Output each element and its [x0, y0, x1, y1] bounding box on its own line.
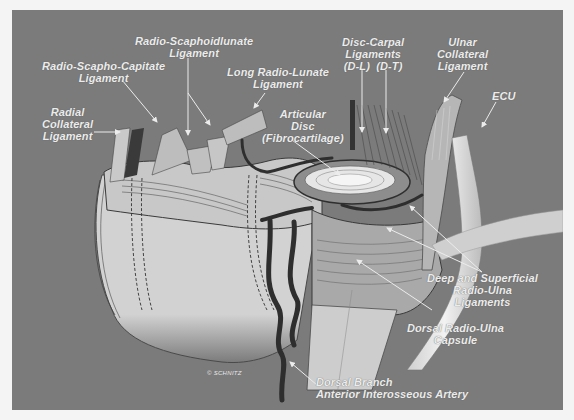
label-deep-superficial-radio-ulna-ligaments: Deep and SuperficialRadio-UlnaLigaments	[427, 272, 538, 308]
label-radio-scaphoidlunate-ligament: Radio-ScaphoidlunateLigament	[135, 35, 253, 59]
label-radial-collateral-ligament: RadialCollateralLigament	[42, 106, 93, 142]
label-dorsal-branch-anterior-interosseous-artery: Dorsal BranchAnterior Interosseous Arter…	[316, 376, 468, 400]
label-articular-disc: ArticularDisc(Fibrocartilage)	[262, 108, 344, 144]
artist-credit: © SCHNITZ	[207, 370, 242, 376]
anatomy-illustration: RadialCollateralLigament Radio-Scapho-Ca…	[12, 10, 563, 410]
label-dorsal-radio-ulna-capsule: Dorsal Radio-UlnaCapsule	[407, 322, 504, 346]
label-ecu: ECU	[492, 90, 516, 102]
label-radio-scapho-capitate-ligament: Radio-Scapho-CapitateLigament	[42, 60, 165, 84]
label-ulnar-collateral-ligament: UlnarCollateralLigament	[437, 36, 488, 72]
label-long-radio-lunate-ligament: Long Radio-LunateLigament	[227, 66, 329, 90]
label-disc-carpal-ligaments: Disc-CarpalLigaments(D-L) (D-T)	[342, 36, 404, 72]
